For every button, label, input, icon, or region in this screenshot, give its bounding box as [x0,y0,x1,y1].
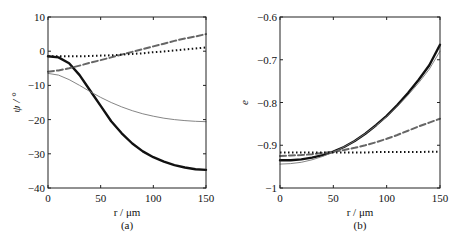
chart-panel-a: 050100150100−10−20−30−40r / μmψ / °(a) [10,11,215,232]
x-tick-label: 50 [95,192,107,204]
x-axis-label: r / μm [347,206,374,218]
panel-label: (a) [121,219,134,232]
y-tick-label: −40 [28,182,46,194]
y-tick-label: −0.7 [257,54,277,66]
x-tick-label: 150 [432,192,449,204]
x-tick-label: 50 [328,192,340,204]
y-tick-label: −10 [28,79,46,91]
x-axis-label: r / μm [114,206,141,218]
y-tick-label: −20 [28,114,46,126]
y-tick-label: −0.6 [257,11,277,23]
series-line-dotted [48,47,206,56]
y-tick-label: −0.8 [257,97,277,109]
series-line-thick-solid [48,56,206,170]
chart-panel-b: 050100150−0.6−0.7−0.8−0.9−1r / μme(b) [238,11,449,232]
x-tick-label: 100 [145,192,162,204]
y-tick-label: −1 [265,182,277,194]
y-tick-label: −0.9 [257,139,277,151]
x-tick-label: 0 [277,192,283,204]
plot-frame [48,17,206,188]
y-axis-label: e [238,100,250,105]
series-line-thin-solid [48,73,206,121]
y-tick-label: −30 [28,148,46,160]
y-tick-label: 0 [40,45,46,57]
plot-frame [280,17,440,188]
x-tick-label: 100 [378,192,395,204]
y-tick-label: 10 [34,11,46,23]
x-tick-label: 0 [45,192,51,204]
y-axis-label: ψ / ° [10,92,22,112]
x-tick-label: 150 [198,192,215,204]
panel-label: (b) [354,219,367,232]
figure: 050100150100−10−20−30−40r / μmψ / °(a) 0… [0,0,459,245]
series-line-dotted [280,152,440,153]
series-line-thick-solid [280,45,440,160]
